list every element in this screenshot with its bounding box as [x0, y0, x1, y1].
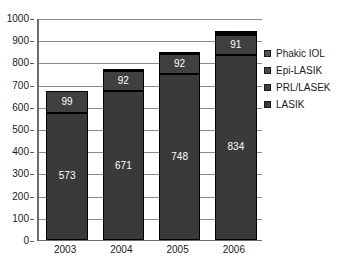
y-axis-tick-mark	[30, 19, 34, 20]
y-axis-tick-mark	[30, 174, 34, 175]
x-axis-tick-label: 2004	[93, 245, 149, 255]
y-axis-tick-mark	[30, 197, 34, 198]
bar-group[interactable]: 671929	[103, 18, 145, 240]
bar-segment-label: 573	[47, 171, 87, 181]
y-axis-tick-label: 900	[12, 36, 29, 46]
bar-segment-label: 91	[216, 40, 256, 50]
y-axis-tick-mark	[30, 108, 34, 109]
y-axis-tick-label: 600	[12, 103, 29, 113]
y-axis-tick-label: 400	[12, 147, 29, 157]
bar-segment-label: 671	[104, 161, 144, 171]
y-axis-tick-label: 200	[12, 192, 29, 202]
bar-segment-label: 8	[232, 31, 239, 33]
bar-group[interactable]: 57399	[46, 18, 88, 240]
y-axis-tick-label: 100	[12, 214, 29, 224]
y-axis-tick-mark	[30, 130, 34, 131]
y-axis-tick-mark	[30, 241, 34, 242]
legend-item-label: Phakic IOL	[276, 48, 325, 59]
bar-group[interactable]: 748924	[159, 18, 201, 240]
plot-area: 573996719297489248349198	[37, 19, 262, 241]
y-axis-tick-label: 800	[12, 58, 29, 68]
bar-segment-label: 99	[47, 97, 87, 107]
bars-layer: 573996719297489248349198	[39, 19, 262, 240]
bar-segment[interactable]: 834	[215, 55, 257, 240]
y-axis-tick-mark	[30, 41, 34, 42]
legend-item-label: Epi-LASIK	[276, 65, 322, 76]
legend-item[interactable]: Phakic IOL	[264, 46, 352, 61]
legend-swatch-icon	[264, 84, 271, 91]
legend-item[interactable]: Epi-LASIK	[264, 63, 352, 78]
bar-segment[interactable]: 748	[159, 74, 201, 240]
bar-segment[interactable]: 92	[103, 71, 145, 91]
y-axis-tick-mark	[30, 152, 34, 153]
bar-segment[interactable]: 4	[159, 52, 201, 54]
y-axis-tick-label: 300	[12, 169, 29, 179]
bar-group[interactable]: 8349198	[215, 18, 257, 240]
bar-segment-label: 9	[232, 33, 239, 35]
bar-segment-label: 748	[160, 152, 200, 162]
bar-segment-label: 92	[160, 59, 200, 69]
y-axis-tick-label: 0	[23, 236, 29, 246]
legend-swatch-icon	[264, 50, 271, 57]
bar-segment[interactable]: 573	[46, 113, 88, 240]
y-axis-tick-mark	[30, 86, 34, 87]
y-axis-tick-label: 500	[12, 125, 29, 135]
legend-item[interactable]: LASIK	[264, 97, 352, 112]
bar-segment[interactable]: 8	[215, 31, 257, 33]
bar-segment-label: 92	[104, 76, 144, 86]
chart-legend: Phakic IOLEpi-LASIKPRL/LASEKLASIK	[264, 46, 352, 114]
y-axis-tick-label: 1000	[7, 14, 29, 24]
bar-segment[interactable]: 671	[103, 91, 145, 240]
bar-segment[interactable]: 9	[215, 33, 257, 35]
legend-swatch-icon	[264, 101, 271, 108]
stacked-bar-chart: 01002003004005006007008009001000 5739967…	[0, 0, 353, 274]
y-axis-tick-mark	[30, 219, 34, 220]
x-axis-tick-label: 2005	[150, 245, 206, 255]
x-axis: 2003200420052006	[37, 245, 262, 261]
legend-item[interactable]: PRL/LASEK	[264, 80, 352, 95]
bar-segment-label: 4	[176, 52, 183, 54]
bar-segment[interactable]: 91	[215, 35, 257, 55]
y-axis: 01002003004005006007008009001000	[0, 0, 34, 274]
bar-segment[interactable]: 92	[159, 54, 201, 74]
bar-segment[interactable]: 9	[103, 69, 145, 71]
y-axis-tick-mark	[30, 63, 34, 64]
x-axis-tick-label: 2003	[37, 245, 93, 255]
y-axis-tick-label: 700	[12, 81, 29, 91]
legend-swatch-icon	[264, 67, 271, 74]
bar-segment[interactable]: 99	[46, 91, 88, 113]
bar-segment-label: 834	[216, 142, 256, 152]
bar-segment-label: 9	[120, 69, 127, 71]
x-axis-tick-label: 2006	[206, 245, 262, 255]
legend-item-label: PRL/LASEK	[276, 82, 330, 93]
legend-item-label: LASIK	[276, 99, 304, 110]
